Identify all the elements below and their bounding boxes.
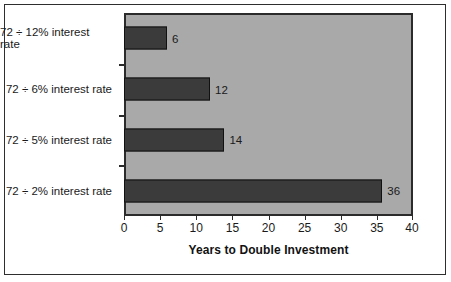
value-axis-tick — [305, 216, 306, 220]
category-axis-labels: 72 ÷ 12% interest rate 72 ÷ 6% interest … — [0, 13, 118, 216]
category-label: 72 ÷ 12% interest rate — [0, 13, 118, 64]
value-axis-label: 0 — [121, 221, 128, 235]
value-axis-label: 15 — [226, 221, 239, 235]
bar — [124, 27, 167, 50]
value-axis-label: 10 — [190, 221, 203, 235]
value-axis-label: 30 — [334, 221, 347, 235]
bar-row: 6 — [124, 13, 413, 64]
value-axis-tick — [412, 216, 413, 220]
bar-row: 14 — [124, 115, 413, 166]
bar-row: 36 — [124, 165, 413, 216]
x-axis-title: Years to Double Investment — [124, 243, 413, 257]
bar-value-label: 12 — [215, 83, 228, 95]
bar-value-label: 6 — [172, 32, 178, 44]
category-label: 72 ÷ 2% interest rate — [0, 165, 118, 216]
bar — [124, 128, 224, 151]
value-axis-label: 5 — [157, 221, 164, 235]
bar-value-label: 36 — [387, 185, 400, 197]
value-axis-tick — [269, 216, 270, 220]
bar-row: 12 — [124, 64, 413, 115]
value-axis-tick — [124, 216, 125, 220]
value-axis-tick — [341, 216, 342, 220]
value-axis-label: 25 — [298, 221, 311, 235]
bar-series: 6 12 14 36 — [124, 13, 413, 216]
value-axis-labels: 0 5 10 15 20 25 30 35 40 — [124, 221, 413, 237]
value-axis-tick — [377, 216, 378, 220]
category-label: 72 ÷ 5% interest rate — [0, 115, 118, 166]
bar — [124, 179, 382, 202]
value-axis-tick — [196, 216, 197, 220]
value-axis-tick — [232, 216, 233, 220]
value-axis-tick — [160, 216, 161, 220]
bar — [124, 78, 210, 101]
value-axis-label: 40 — [405, 221, 418, 235]
chart-figure: 72 ÷ 12% interest rate 72 ÷ 6% interest … — [0, 0, 451, 282]
category-label: 72 ÷ 6% interest rate — [0, 64, 118, 115]
bar-value-label: 14 — [229, 134, 242, 146]
value-axis-label: 20 — [262, 221, 275, 235]
value-axis-label: 35 — [370, 221, 383, 235]
